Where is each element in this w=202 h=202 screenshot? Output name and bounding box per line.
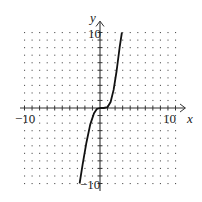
plot-area: −1010x10−10y <box>0 0 202 202</box>
graph: −1010x10−10y <box>0 0 202 202</box>
x-min-label: −10 <box>15 111 35 126</box>
y-axis-label: y <box>88 10 96 25</box>
y-min-label: −10 <box>80 177 100 192</box>
x-axis-label: x <box>186 111 193 126</box>
x-max-label: 10 <box>163 111 176 126</box>
y-max-label: 10 <box>88 26 101 41</box>
